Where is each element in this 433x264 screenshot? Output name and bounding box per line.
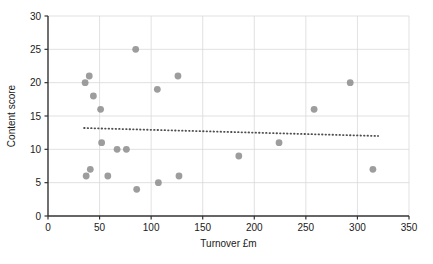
x-axis-tick-label: 150 [194,222,211,233]
y-axis-title: Content score [6,84,17,147]
data-point [235,153,242,160]
data-point [347,79,354,86]
scatter-chart: 051015202530050100150200250300350Turnove… [0,0,433,264]
data-point [83,173,90,180]
data-point [276,139,283,146]
trendline [84,128,378,136]
y-axis-tick-label: 30 [30,11,42,22]
y-axis-tick-label: 0 [35,211,41,222]
data-point [133,186,140,193]
x-axis-tick-label: 100 [143,222,160,233]
data-point [87,166,94,173]
data-point [175,73,182,80]
y-axis-tick-label: 15 [30,111,42,122]
data-point [98,139,105,146]
data-point [104,173,111,180]
x-axis-tick-label: 350 [401,222,418,233]
x-axis-tick-label: 250 [298,222,315,233]
chart-canvas: 051015202530050100150200250300350Turnove… [0,0,433,264]
data-point [82,79,89,86]
y-axis-tick-label: 20 [30,77,42,88]
gridlines [48,16,409,216]
y-axis-tick-label: 5 [35,177,41,188]
data-point [97,106,104,113]
data-point [155,179,162,186]
x-axis-tick-label: 300 [349,222,366,233]
data-point [114,146,121,153]
data-point [123,146,130,153]
x-axis-tick-label: 50 [94,222,106,233]
data-point [90,93,97,100]
y-axis-tick-label: 10 [30,144,42,155]
data-point [311,106,318,113]
data-point [132,46,139,53]
x-axis-tick-label: 200 [246,222,263,233]
x-axis-tick-label: 0 [45,222,51,233]
data-point [370,166,377,173]
x-axis-title: Turnover £m [200,238,256,249]
data-point [176,173,183,180]
series-0 [82,46,377,193]
y-axis-tick-label: 25 [30,44,42,55]
data-point [154,86,161,93]
data-point [86,73,93,80]
